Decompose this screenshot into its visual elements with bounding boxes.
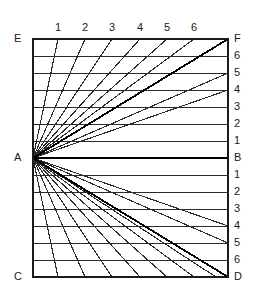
figure-canvas	[0, 0, 253, 293]
right-scale-label-4: 2	[234, 118, 240, 129]
right-scale-label-8: 3	[234, 203, 240, 214]
right-scale-label-5: 1	[234, 135, 240, 146]
heavy-diagonal-A-F	[33, 39, 228, 158]
right-scale-label-3: 3	[234, 101, 240, 112]
corner-label-D: D	[234, 271, 242, 282]
heavy-diagonal-A-D	[33, 158, 228, 277]
right-scale-label-11: 6	[234, 254, 240, 265]
right-scale-label-0: 6	[234, 50, 240, 61]
corner-label-F: F	[234, 33, 241, 44]
upper-ray-2	[33, 39, 85, 158]
right-scale-label-6: 1	[234, 169, 240, 180]
right-scale-label-10: 5	[234, 237, 240, 248]
corner-label-E: E	[14, 33, 21, 44]
top-scale-label-2: 3	[109, 22, 115, 33]
top-scale-label-5: 6	[191, 22, 197, 33]
horizon-label-B: B	[234, 152, 241, 163]
right-scale-label-2: 4	[234, 84, 240, 95]
upper-ray-4	[33, 39, 140, 158]
right-scale-label-1: 5	[234, 67, 240, 78]
perspective-grid-figure: E F A B C D 654321123456 123456	[0, 0, 253, 293]
top-scale-label-4: 5	[164, 22, 170, 33]
top-scale-label-0: 1	[55, 22, 61, 33]
top-scale-label-3: 4	[137, 22, 143, 33]
top-scale-label-1: 2	[82, 22, 88, 33]
corner-label-C: C	[14, 271, 22, 282]
lower-ray-2	[33, 158, 85, 277]
right-scale-label-9: 4	[234, 220, 240, 231]
vanishing-point-label-A: A	[14, 152, 21, 163]
right-scale-label-7: 2	[234, 186, 240, 197]
